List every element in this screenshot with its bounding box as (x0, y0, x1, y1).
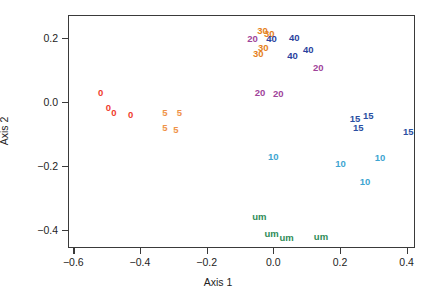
data-point-label-0: 0 (98, 89, 103, 99)
x-tick-mark (273, 248, 274, 254)
y-tick-mark (62, 230, 68, 231)
x-tick-mark (73, 248, 74, 254)
data-point-label-15: 15 (403, 128, 414, 138)
data-point-label-5: 5 (162, 108, 167, 118)
data-point-label-10: 10 (268, 152, 279, 162)
data-point-label-40: 40 (289, 33, 300, 43)
data-point-label-0: 0 (106, 104, 111, 114)
y-axis-title: Axis 2 (0, 117, 10, 146)
y-tick-mark (62, 166, 68, 167)
data-point-label-15: 15 (353, 123, 364, 133)
x-tick-label: −0.6 (63, 256, 84, 268)
scatter-plot-figure: −0.6−0.4−0.20.00.20.4 0.20.0−0.2−0.4 000… (0, 0, 436, 301)
data-point-label-5: 5 (173, 125, 178, 135)
data-point-label-um: um (314, 232, 328, 242)
x-axis-title: Axis 1 (0, 276, 436, 288)
data-point-label-20: 20 (313, 64, 324, 74)
data-point-label-0: 0 (111, 108, 116, 118)
data-point-label-20: 20 (247, 34, 258, 44)
x-tick-label: −0.4 (130, 256, 151, 268)
y-tick-mark (62, 102, 68, 103)
x-tick-mark (140, 248, 141, 254)
data-point-label-10: 10 (360, 177, 371, 187)
y-tick-label: 0.0 (43, 96, 58, 108)
y-tick-mark (62, 38, 68, 39)
data-point-label-10: 10 (375, 153, 386, 163)
data-point-label-40: 40 (266, 34, 277, 44)
data-point-label-30: 30 (253, 50, 264, 60)
data-point-label-40: 40 (287, 52, 298, 62)
x-tick-mark (407, 248, 408, 254)
data-point-label-10: 10 (335, 159, 346, 169)
y-tick-label: 0.2 (43, 32, 58, 44)
data-point-label-um: um (280, 233, 294, 243)
x-tick-label: 0.0 (266, 256, 281, 268)
data-point-label-um: um (252, 212, 266, 222)
data-point-label-40: 40 (303, 45, 314, 55)
x-tick-label: 0.4 (399, 256, 414, 268)
data-point-label-5: 5 (162, 123, 167, 133)
x-tick-mark (340, 248, 341, 254)
data-point-label-15: 15 (363, 111, 374, 121)
y-tick-label: −0.4 (37, 224, 58, 236)
x-tick-label: 0.2 (333, 256, 348, 268)
x-tick-mark (207, 248, 208, 254)
data-point-label-5: 5 (177, 108, 182, 118)
data-point-label-0: 0 (128, 110, 133, 120)
data-point-label-20: 20 (273, 89, 284, 99)
data-point-label-20: 20 (255, 89, 266, 99)
y-tick-label: −0.2 (37, 160, 58, 172)
x-tick-label: −0.2 (196, 256, 217, 268)
data-point-label-um: um (265, 229, 279, 239)
